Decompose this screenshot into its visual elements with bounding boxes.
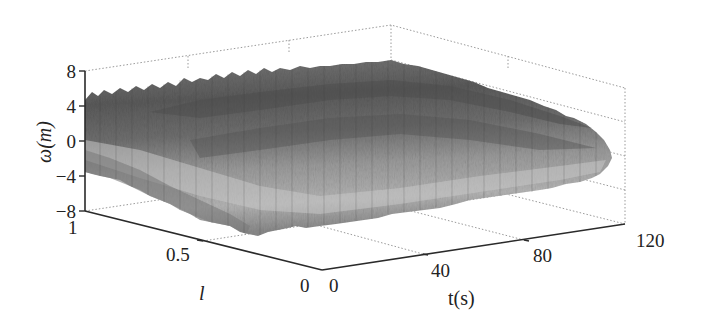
l-tick: 0 [300, 275, 310, 296]
surface [85, 60, 612, 236]
t-tick-labels: 0 40 80 120 [329, 230, 665, 296]
t-axis-line [322, 224, 625, 270]
t-tick: 80 [533, 245, 552, 266]
z-tick: 8 [67, 61, 77, 82]
z-tick-labels: 8 4 0 −4 −8 [56, 61, 77, 222]
z-tick: −4 [56, 166, 77, 187]
z-tick: 0 [67, 131, 77, 152]
t-tick: 0 [329, 275, 339, 296]
z-tick: 4 [67, 96, 77, 117]
l-tick: 0.5 [166, 244, 190, 265]
t-axis-label: t(s) [448, 287, 475, 310]
t-tick: 40 [431, 260, 450, 281]
z-axis-label: ω(m) [33, 121, 56, 163]
l-axis-label: l [199, 282, 205, 304]
surface-plot-figure: 8 4 0 −4 −8 1 0.5 0 0 40 80 120 ω(m) l t… [0, 0, 702, 332]
t-tick: 120 [636, 230, 665, 251]
l-tick: 1 [68, 217, 78, 238]
